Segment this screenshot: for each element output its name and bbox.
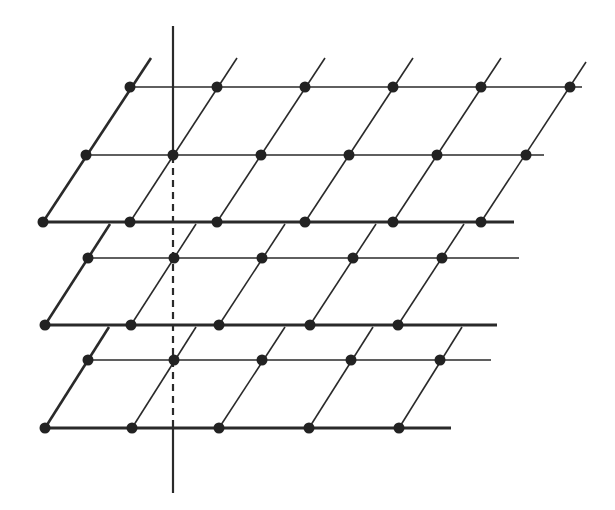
lattice-point bbox=[81, 150, 92, 161]
lattice-point bbox=[565, 82, 576, 93]
lattice-point bbox=[169, 355, 180, 366]
top-oblique-line bbox=[43, 58, 151, 222]
lattice-point bbox=[40, 423, 51, 434]
middle-oblique-line bbox=[398, 224, 464, 325]
lattice-point bbox=[214, 423, 225, 434]
lattice-point bbox=[476, 217, 487, 228]
lattice-lines bbox=[43, 58, 586, 428]
lattice-point bbox=[256, 150, 267, 161]
middle-oblique-line bbox=[45, 224, 110, 325]
lattice-point bbox=[125, 217, 136, 228]
lattice-point bbox=[346, 355, 357, 366]
bottom-oblique-line bbox=[309, 327, 373, 428]
lattice-diagram bbox=[0, 0, 615, 510]
lattice-point bbox=[212, 82, 223, 93]
lattice-point bbox=[126, 320, 137, 331]
lattice-point bbox=[348, 253, 359, 264]
lattice-point bbox=[212, 217, 223, 228]
lattice-point bbox=[521, 150, 532, 161]
lattice-point bbox=[169, 253, 180, 264]
lattice-point bbox=[393, 320, 404, 331]
lattice-point bbox=[305, 320, 316, 331]
lattice-point bbox=[257, 253, 268, 264]
top-oblique-line bbox=[305, 58, 413, 222]
bottom-oblique-line bbox=[45, 327, 109, 428]
middle-oblique-line bbox=[310, 224, 376, 325]
lattice-point bbox=[304, 423, 315, 434]
lattice-point bbox=[437, 253, 448, 264]
bottom-oblique-line bbox=[399, 327, 462, 428]
lattice-point bbox=[214, 320, 225, 331]
lattice-point bbox=[257, 355, 268, 366]
top-oblique-line bbox=[217, 58, 325, 222]
bottom-oblique-line bbox=[219, 327, 285, 428]
lattice-point bbox=[300, 217, 311, 228]
middle-oblique-line bbox=[219, 224, 285, 325]
middle-oblique-line bbox=[131, 224, 196, 325]
lattice-point bbox=[38, 217, 49, 228]
lattice-point bbox=[83, 253, 94, 264]
lattice-point bbox=[168, 150, 179, 161]
top-oblique-line bbox=[393, 58, 501, 222]
bottom-oblique-line bbox=[132, 327, 196, 428]
lattice-point bbox=[127, 423, 138, 434]
lattice-point bbox=[394, 423, 405, 434]
lattice-point bbox=[83, 355, 94, 366]
top-oblique-line bbox=[130, 58, 237, 222]
lattice-point bbox=[388, 82, 399, 93]
lattice-point bbox=[388, 217, 399, 228]
lattice-point bbox=[125, 82, 136, 93]
lattice-point bbox=[300, 82, 311, 93]
lattice-point bbox=[432, 150, 443, 161]
lattice-point bbox=[476, 82, 487, 93]
lattice-point bbox=[40, 320, 51, 331]
lattice-point bbox=[435, 355, 446, 366]
lattice-point bbox=[344, 150, 355, 161]
